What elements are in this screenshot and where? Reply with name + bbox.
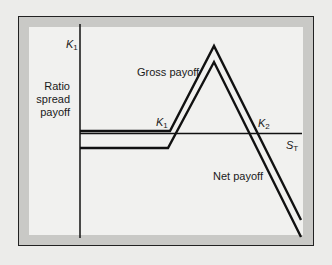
k1-strike-label: K1	[156, 116, 168, 132]
k2-strike-label: K2	[258, 117, 270, 133]
x-axis-st-label: ST	[286, 139, 298, 155]
gross-payoff-label: Gross payoff	[137, 66, 199, 78]
y-axis-title: Ratio spread payoff	[22, 80, 70, 119]
payoff-diagram	[0, 0, 332, 265]
y-axis-k1-label: K1	[66, 38, 78, 54]
net-payoff-line	[80, 62, 301, 237]
net-payoff-label: Net payoff	[213, 170, 263, 182]
